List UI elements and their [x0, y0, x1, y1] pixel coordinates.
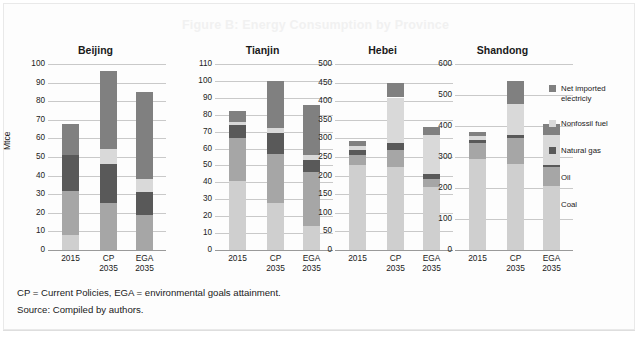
bar-segment-oil[interactable]: [349, 155, 366, 165]
x-axis-tick-label: 2015: [53, 253, 88, 263]
bar-segment-coal[interactable]: [229, 181, 246, 250]
bar-segment-net-imported-electriciy[interactable]: [507, 81, 524, 104]
stacked-bar[interactable]: 2015: [469, 132, 486, 250]
panel-title-beijing: Beijing: [18, 44, 173, 56]
bar-segment-nonfossil-fuel[interactable]: [136, 179, 153, 192]
bar-segment-coal[interactable]: [469, 159, 486, 250]
y-axis-tick: 20: [36, 209, 45, 217]
y-axis-tick: 50: [36, 153, 45, 161]
y-axis-tick: 300: [438, 153, 452, 161]
stacked-bar[interactable]: CP 2035: [267, 81, 284, 250]
y-axis-tick: 50: [203, 161, 212, 169]
bar-segment-natural-gas[interactable]: [469, 140, 486, 143]
stacked-bar[interactable]: CP 2035: [507, 81, 524, 250]
bar-segment-oil[interactable]: [136, 215, 153, 250]
bar-segment-coal[interactable]: [349, 165, 366, 250]
bar-segment-nonfossil-fuel[interactable]: [100, 149, 117, 164]
x-axis-tick-label: CP 2035: [91, 253, 126, 273]
bar-segment-coal[interactable]: [507, 164, 524, 250]
y-axis-tick: 500: [438, 91, 452, 99]
y-axis-tick: 450: [318, 78, 332, 86]
bar-segment-net-imported-electriciy[interactable]: [349, 141, 366, 146]
legend-label: Coal: [561, 200, 635, 210]
bar-segment-net-imported-electriciy[interactable]: [267, 81, 284, 128]
y-axis-tick: 600: [438, 60, 452, 68]
legend-item[interactable]: Natural gas: [549, 146, 635, 157]
bar-segment-natural-gas[interactable]: [62, 155, 79, 191]
bar-segment-natural-gas[interactable]: [100, 164, 117, 203]
bar-segment-net-imported-electriciy[interactable]: [387, 83, 404, 97]
x-axis-tick-label: CP 2035: [258, 253, 293, 273]
bar-segment-oil[interactable]: [267, 154, 284, 203]
legend-label: Net imported electriciy: [561, 84, 635, 103]
bar-segment-coal[interactable]: [267, 203, 284, 250]
bar-segment-natural-gas[interactable]: [507, 135, 524, 139]
stacked-bar[interactable]: CP 2035: [387, 83, 404, 250]
stacked-bar[interactable]: 2015: [62, 124, 79, 250]
y-axis-tick: 110: [199, 60, 212, 68]
bar-segment-natural-gas[interactable]: [136, 192, 153, 214]
y-axis-tick: 200: [318, 171, 332, 179]
gridline: [455, 64, 573, 65]
bar-segment-nonfossil-fuel[interactable]: [229, 122, 246, 125]
x-axis-tick-label: EGA 2035: [534, 253, 569, 273]
bar-segment-nonfossil-fuel[interactable]: [387, 98, 404, 143]
legend-item[interactable]: Oil: [549, 173, 635, 184]
legend-swatch-coal: [549, 201, 556, 208]
legend-item[interactable]: Net imported electriciy: [549, 84, 635, 103]
legend-item[interactable]: Nonfossil fuel: [549, 119, 635, 130]
x-axis-tick-label: 2015: [460, 253, 495, 263]
legend-label: Nonfossil fuel: [561, 119, 635, 129]
y-axis-tick: 500: [318, 60, 332, 68]
bar-segment-nonfossil-fuel[interactable]: [507, 104, 524, 134]
stacked-bar[interactable]: CP 2035: [100, 71, 117, 250]
bar-segment-oil[interactable]: [62, 191, 79, 235]
y-axis-tick: 80: [36, 97, 45, 105]
y-axis-tick: 90: [36, 78, 45, 86]
x-axis-tick-label: EGA 2035: [127, 253, 162, 273]
bar-segment-coal[interactable]: [62, 235, 79, 250]
bar-segment-natural-gas[interactable]: [267, 133, 284, 153]
y-axis-tick: 200: [438, 184, 452, 192]
legend-item[interactable]: Coal: [549, 200, 635, 211]
bar-segment-net-imported-electriciy[interactable]: [100, 71, 117, 148]
legend-label: Natural gas: [561, 146, 635, 156]
y-axis-tick: 30: [203, 195, 212, 203]
bar-segment-oil[interactable]: [100, 203, 117, 250]
y-axis-tick: 70: [203, 128, 212, 136]
figure-note-source: Source: Compiled by authors.: [17, 304, 143, 315]
y-axis-tick: 0: [40, 246, 45, 254]
bar-segment-oil[interactable]: [387, 150, 404, 168]
bar-segment-nonfossil-fuel[interactable]: [349, 146, 366, 150]
bar-segment-natural-gas[interactable]: [229, 125, 246, 139]
bar-segment-net-imported-electriciy[interactable]: [136, 92, 153, 179]
bar-segment-coal[interactable]: [387, 167, 404, 250]
x-axis-tick-label: 2015: [220, 253, 255, 263]
bar-segment-natural-gas[interactable]: [387, 143, 404, 150]
bar-segment-oil[interactable]: [507, 138, 524, 164]
gridline: [48, 64, 166, 65]
stacked-bar[interactable]: 2015: [229, 111, 246, 250]
y-axis-tick: 60: [36, 134, 45, 142]
chart-legend: Net imported electriciyNonfossil fuelNat…: [549, 84, 635, 227]
panel-title-shandong: Shandong: [425, 44, 580, 56]
bar-segment-nonfossil-fuel[interactable]: [267, 128, 284, 133]
stacked-bar[interactable]: EGA 2035: [136, 92, 153, 250]
bar-segment-nonfossil-fuel[interactable]: [469, 136, 486, 140]
bar-segment-natural-gas[interactable]: [349, 150, 366, 155]
y-axis-tick: 20: [203, 212, 212, 220]
footer-divider: [3, 330, 635, 331]
bar-segment-net-imported-electriciy[interactable]: [229, 111, 246, 121]
y-axis-tick: 30: [36, 190, 45, 198]
y-axis-tick: 100: [198, 77, 212, 85]
y-axis-tick: 100: [318, 209, 332, 217]
figure-title: Figure B: Energy Consumption by Province: [182, 18, 482, 32]
y-axis-tick: 400: [318, 97, 332, 105]
figure-note-definitions: CP = Current Policies, EGA = environment…: [17, 287, 281, 298]
bar-segment-net-imported-electriciy[interactable]: [62, 124, 79, 156]
stacked-bar[interactable]: 2015: [349, 141, 366, 250]
bar-segment-oil[interactable]: [469, 143, 486, 159]
bar-segment-oil[interactable]: [229, 138, 246, 180]
bar-segment-net-imported-electriciy[interactable]: [469, 132, 486, 136]
y-axis-tick: 250: [318, 153, 332, 161]
